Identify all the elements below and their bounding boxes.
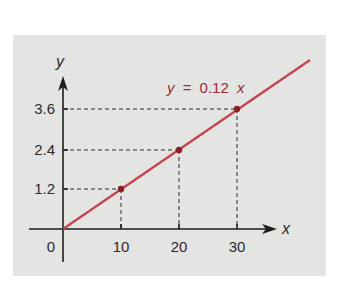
y-tick-label: 1.2: [34, 180, 55, 197]
x-tick-label: 30: [229, 238, 246, 255]
x-tick-label: 10: [113, 238, 130, 255]
equation-coef: 0.12: [200, 79, 229, 96]
y-tick-label: 3.6: [34, 100, 55, 117]
y-axis-label: y: [55, 53, 65, 70]
x-axis-label: x: [281, 220, 291, 237]
equation-x: x: [236, 79, 245, 96]
data-point: [234, 106, 240, 112]
data-point: [176, 147, 182, 153]
origin-label: 0: [47, 238, 55, 255]
equation-y: y: [166, 79, 176, 96]
chart: 1.2 2.4 3.6 0 10 20 30 y x y = 0.12 x: [0, 0, 347, 291]
equation-equals: =: [183, 79, 192, 96]
x-tick-label: 20: [171, 238, 188, 255]
y-tick-label: 2.4: [34, 141, 55, 158]
data-point: [118, 186, 124, 192]
